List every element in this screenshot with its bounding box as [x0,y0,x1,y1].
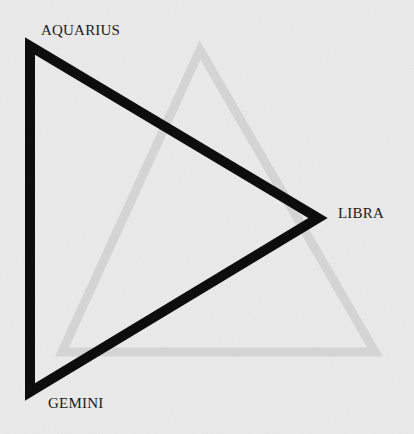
vertex-label-libra: LIBRA [338,205,384,222]
vertex-label-aquarius: AQUARIUS [41,22,120,39]
vertex-label-gemini: GEMINI [48,395,103,412]
